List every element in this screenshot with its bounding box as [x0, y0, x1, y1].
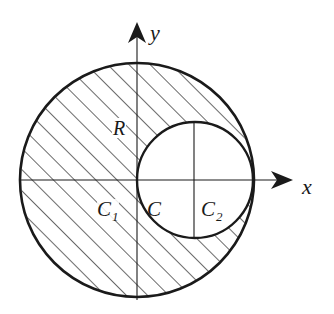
hollow-disk-diagram — [0, 0, 334, 314]
c2-label-sub: 2 — [216, 209, 223, 224]
radius-label: R — [112, 118, 126, 138]
c1-label-main: C — [97, 197, 111, 221]
c1-label-sub: 1 — [112, 209, 119, 224]
c1-label: C1 — [97, 199, 119, 220]
c2-label: C2 — [201, 199, 223, 220]
x-axis-label: x — [302, 176, 312, 198]
c2-label-main: C — [201, 197, 215, 221]
c-label: C — [147, 199, 161, 220]
y-axis-label: y — [150, 22, 160, 44]
